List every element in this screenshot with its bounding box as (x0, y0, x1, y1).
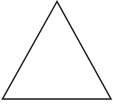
triangle-shape (3, 2, 112, 100)
triangle-diagram (0, 0, 113, 105)
